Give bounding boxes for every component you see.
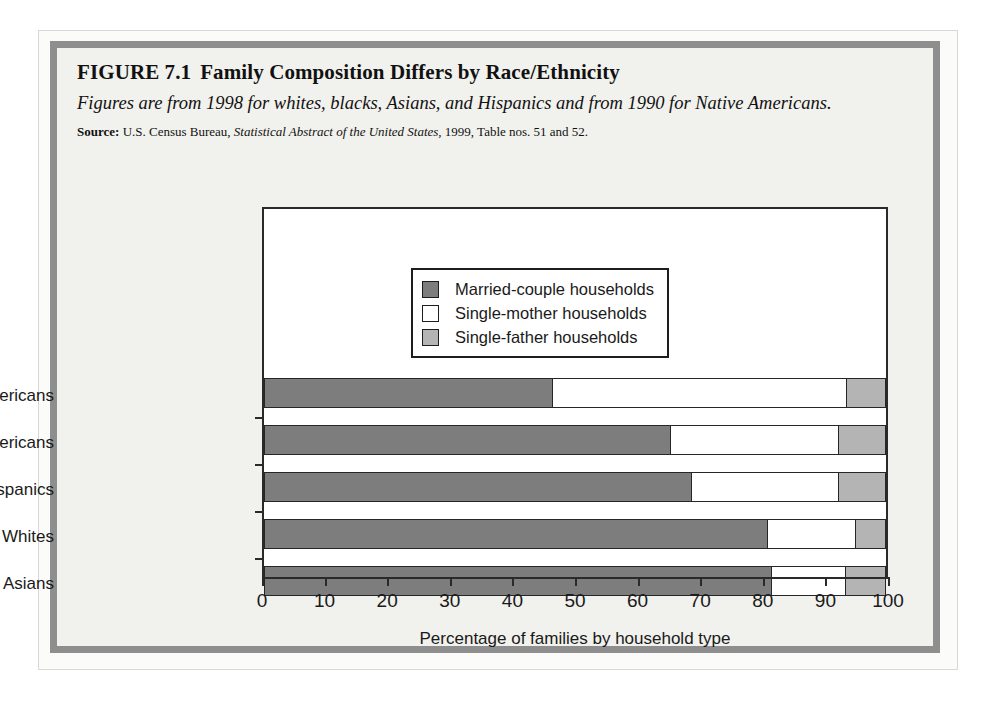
figure-caption: FIGURE 7.1Family Composition Differs by … bbox=[77, 60, 907, 140]
y-axis-tick bbox=[255, 558, 264, 560]
x-axis-tick bbox=[638, 577, 640, 586]
bar-segment-single-father bbox=[839, 472, 886, 502]
x-axis-tick bbox=[262, 577, 264, 586]
category-label: African Americans bbox=[0, 386, 54, 406]
x-tick-label: 70 bbox=[670, 590, 730, 612]
figure-source: Source: U.S. Census Bureau, Statistical … bbox=[77, 124, 907, 140]
x-axis-tick bbox=[387, 577, 389, 586]
bar-segment-single-father bbox=[847, 378, 886, 408]
x-axis-tick bbox=[450, 577, 452, 586]
x-axis-tick bbox=[700, 577, 702, 586]
bar-row bbox=[264, 378, 886, 408]
bar-segment-married bbox=[264, 378, 553, 408]
x-axis-tick bbox=[825, 577, 827, 586]
source-publication: Statistical Abstract of the United State… bbox=[234, 124, 442, 139]
figure-subtitle: Figures are from 1998 for whites, blacks… bbox=[77, 91, 837, 116]
figure-title-text: Family Composition Differs by Race/Ethni… bbox=[200, 60, 620, 84]
x-tick-label: 50 bbox=[545, 590, 605, 612]
bar-track bbox=[264, 378, 886, 408]
x-tick-label: 0 bbox=[232, 590, 292, 612]
y-axis-tick bbox=[255, 464, 264, 466]
source-text-part1: U.S. Census Bureau, bbox=[123, 124, 231, 139]
x-axis-tick bbox=[575, 577, 577, 586]
category-label: Hispanics bbox=[0, 480, 54, 500]
source-text-part2: 1999, Table nos. 51 and 52. bbox=[445, 124, 588, 139]
x-tick-label: 80 bbox=[733, 590, 793, 612]
x-tick-label: 20 bbox=[357, 590, 417, 612]
x-axis-tick bbox=[325, 577, 327, 586]
x-tick-label: 90 bbox=[795, 590, 855, 612]
bar-segment-single-father bbox=[839, 425, 886, 455]
x-tick-label: 30 bbox=[420, 590, 480, 612]
y-axis-tick bbox=[255, 511, 264, 513]
bar-segment-single-mother bbox=[692, 472, 839, 502]
bar-segment-single-mother bbox=[553, 378, 847, 408]
source-label: Source: bbox=[77, 124, 119, 139]
bar-segment-single-father bbox=[856, 519, 886, 549]
bar-segment-married bbox=[264, 472, 692, 502]
bar-segment-single-mother bbox=[671, 425, 838, 455]
x-tick-label: 40 bbox=[482, 590, 542, 612]
x-axis-tick bbox=[763, 577, 765, 586]
x-tick-label: 10 bbox=[295, 590, 355, 612]
x-axis-tick bbox=[888, 577, 890, 586]
bar-segment-married bbox=[264, 519, 768, 549]
figure-frame: FIGURE 7.1Family Composition Differs by … bbox=[50, 41, 940, 653]
bar-row bbox=[264, 519, 886, 549]
figure-inner: FIGURE 7.1Family Composition Differs by … bbox=[57, 48, 933, 646]
category-label: Whites bbox=[0, 527, 54, 547]
bar-track bbox=[264, 425, 886, 455]
y-axis-tick bbox=[255, 417, 264, 419]
bar-segment-single-mother bbox=[768, 519, 856, 549]
x-axis-title: Percentage of families by household type bbox=[262, 629, 888, 649]
category-label: Native Americans bbox=[0, 433, 54, 453]
category-label: Asians bbox=[0, 574, 54, 594]
bar-row bbox=[264, 472, 886, 502]
bar-track bbox=[264, 519, 886, 549]
x-axis: 0102030405060708090100 Percentage of fam… bbox=[262, 577, 888, 578]
bar-segment-married bbox=[264, 425, 671, 455]
bar-row bbox=[264, 425, 886, 455]
x-tick-label: 100 bbox=[858, 590, 918, 612]
plot-panel: Married-couple households Single-mother … bbox=[262, 207, 888, 577]
x-axis-tick bbox=[512, 577, 514, 586]
bar-track bbox=[264, 472, 886, 502]
figure-number: FIGURE 7.1 bbox=[77, 60, 191, 84]
figure-page: FIGURE 7.1Family Composition Differs by … bbox=[0, 0, 995, 714]
x-tick-label: 60 bbox=[608, 590, 668, 612]
figure-title: FIGURE 7.1Family Composition Differs by … bbox=[77, 60, 907, 85]
bars-area: African AmericansNative AmericansHispani… bbox=[264, 209, 886, 575]
